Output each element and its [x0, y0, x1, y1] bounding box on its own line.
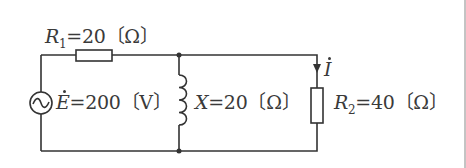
r2-unit: 〔Ω〕	[395, 91, 448, 113]
r1-symbol: R	[45, 25, 59, 47]
r2-value: =40	[355, 91, 394, 113]
current-symbol: I	[324, 60, 331, 79]
inductor-value: =20	[208, 91, 247, 113]
source-label: E=200〔V〕	[56, 93, 171, 112]
source-value: =200	[70, 91, 121, 113]
inductor-unit: 〔Ω〕	[247, 91, 300, 113]
inductor-symbol: X	[195, 91, 208, 113]
r2-symbol: R	[334, 91, 348, 113]
source-symbol: E	[56, 93, 70, 112]
source-unit: 〔V〕	[121, 91, 172, 113]
resistor-r2	[311, 88, 323, 123]
r1-label: R1=20〔Ω〕	[45, 27, 158, 46]
junction-dot-top	[177, 53, 182, 58]
r1-unit: 〔Ω〕	[106, 25, 159, 47]
inductor-label: X=20〔Ω〕	[195, 93, 300, 112]
resistor-r1	[76, 50, 112, 61]
current-label: I	[324, 60, 331, 79]
r2-label: R2=40〔Ω〕	[334, 93, 447, 112]
r1-subscript: 1	[59, 37, 66, 51]
r1-value: =20	[66, 25, 105, 47]
current-arrow-icon	[313, 64, 321, 73]
junction-dot-bottom	[177, 149, 182, 154]
r2-subscript: 2	[348, 103, 355, 117]
inductor-coil	[179, 75, 187, 125]
circuit-diagram: R1=20〔Ω〕 E=200〔V〕 X=20〔Ω〕 I R2=40〔Ω〕	[0, 0, 466, 168]
